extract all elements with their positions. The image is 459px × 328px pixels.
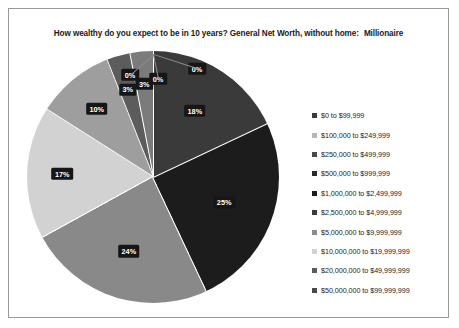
legend-swatch-icon: [312, 230, 317, 235]
legend-item[interactable]: $5,000,000 to $9,999,999: [312, 222, 442, 241]
pie-slice-label: 18%: [184, 105, 206, 117]
legend-item[interactable]: $2,500,000 to $4,999,999: [312, 203, 442, 222]
legend-item-label: $250,000 to $499,999: [321, 150, 390, 159]
legend-item-label: $500,000 to $999,999: [321, 169, 390, 178]
legend-item-label: $0 to $99,999: [321, 111, 364, 120]
legend-item-label: $1,000,000 to $2,499,999: [321, 189, 402, 198]
legend-item-label: $2,500,000 to $4,999,999: [321, 208, 402, 217]
legend-item-label: $100,000 to $249,999: [321, 131, 390, 140]
legend-swatch-icon: [312, 191, 317, 196]
pie-slice-label: 17%: [52, 168, 74, 180]
chart-title-emphasis: Millionaire: [364, 29, 403, 38]
chart-title-text: How wealthy do you expect to be in 10 ye…: [54, 29, 359, 38]
legend-swatch-icon: [312, 268, 317, 273]
pie-chart: 18%25%24%17%10%3%3%0%0%0%: [27, 51, 279, 303]
legend-item-label: $50,000,000 to $99,999,999: [321, 286, 410, 295]
legend-item[interactable]: $0 to $99,999: [312, 106, 442, 125]
chart-legend: $0 to $99,999$100,000 to $249,999$250,00…: [312, 106, 442, 300]
legend-item[interactable]: $100,000 to $249,999: [312, 125, 442, 144]
legend-item[interactable]: $500,000 to $999,999: [312, 164, 442, 183]
pie-slice-label: 24%: [118, 245, 140, 257]
pie-slice-label: 10%: [86, 103, 108, 115]
chart-title: How wealthy do you expect to be in 10 ye…: [9, 29, 448, 38]
chart-frame: How wealthy do you expect to be in 10 ye…: [8, 8, 449, 318]
pie-slice-label: 3%: [119, 84, 137, 96]
pie-slice-label: 25%: [213, 196, 235, 208]
legend-swatch-icon: [312, 113, 317, 118]
legend-item[interactable]: $10,000,000 to $19,999,999: [312, 242, 442, 261]
legend-swatch-icon: [312, 249, 317, 254]
legend-item[interactable]: $1,000,000 to $2,499,999: [312, 184, 442, 203]
legend-swatch-icon: [312, 288, 317, 293]
legend-swatch-icon: [312, 133, 317, 138]
legend-swatch-icon: [312, 210, 317, 215]
legend-swatch-icon: [312, 152, 317, 157]
legend-item[interactable]: $250,000 to $499,999: [312, 145, 442, 164]
legend-item-label: $10,000,000 to $19,999,999: [321, 247, 410, 256]
legend-item-label: $5,000,000 to $9,999,999: [321, 228, 402, 237]
legend-item[interactable]: $20,000,000 to $49,999,999: [312, 261, 442, 280]
pie-slice-label: 0%: [188, 63, 206, 75]
legend-item[interactable]: $50,000,000 to $99,999,999: [312, 281, 442, 300]
legend-swatch-icon: [312, 171, 317, 176]
legend-item-label: $20,000,000 to $49,999,999: [321, 266, 410, 275]
